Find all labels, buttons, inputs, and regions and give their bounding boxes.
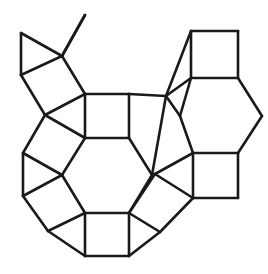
square-upper-right — [191, 31, 238, 78]
square-right-lower — [193, 153, 238, 198]
polyhedron-net-drawing — [0, 0, 268, 274]
square-bottom — [85, 213, 129, 256]
square-center — [85, 94, 129, 138]
figure-canvas: Polyhedron net line drawing — [0, 0, 268, 274]
